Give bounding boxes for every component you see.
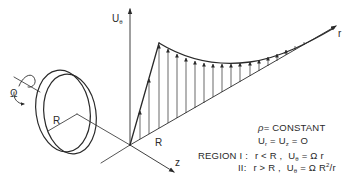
disk-radius-label: R [53,116,60,126]
disk-front-face [39,71,102,157]
disk-axle-outer [14,77,40,92]
density-condition: ρ= CONSTANT [258,123,325,133]
region1-prefix: REGION I : [198,150,248,161]
z-axis-label: z [175,158,180,168]
disk-back-edge [31,67,96,156]
u-symbol: U [279,135,286,146]
r-axis-label: r [338,29,341,39]
profile-radius-label: R [155,138,162,148]
region1-velocity: = Ω r [299,150,324,161]
omega-label: Ω [10,89,17,99]
region1-condition: REGION I : r < R , Uθ = Ω r [198,151,324,162]
equals: = [267,135,278,146]
region2-velocity: = Ω R [297,162,326,173]
rotation-arrow-icon [19,75,35,87]
over-r: /r [330,162,336,173]
z-axis [130,145,174,172]
region1-inequality: r < R , [255,150,283,161]
velocity-condition: Ur = Uz = O [258,136,308,147]
u-symbol: U [258,135,265,146]
region2-profile-curve [159,28,334,63]
region2-prefix: II: [238,162,247,173]
region1-profile-line [130,43,159,145]
disk-axle-line [77,114,130,145]
region1-velocity-arrows [140,45,159,139]
region2-inequality: r > R , [253,162,281,173]
equals-zero: = O [289,135,308,146]
density-text: = CONSTANT [264,122,326,133]
u-theta-axis-label: Uθ [112,14,123,25]
axis-extension [101,145,130,163]
region2-condition: II: r > R , Uθ = Ω R2/r [238,162,336,174]
u-theta-subscript: θ [119,19,122,25]
u-symbol: U [287,162,294,173]
